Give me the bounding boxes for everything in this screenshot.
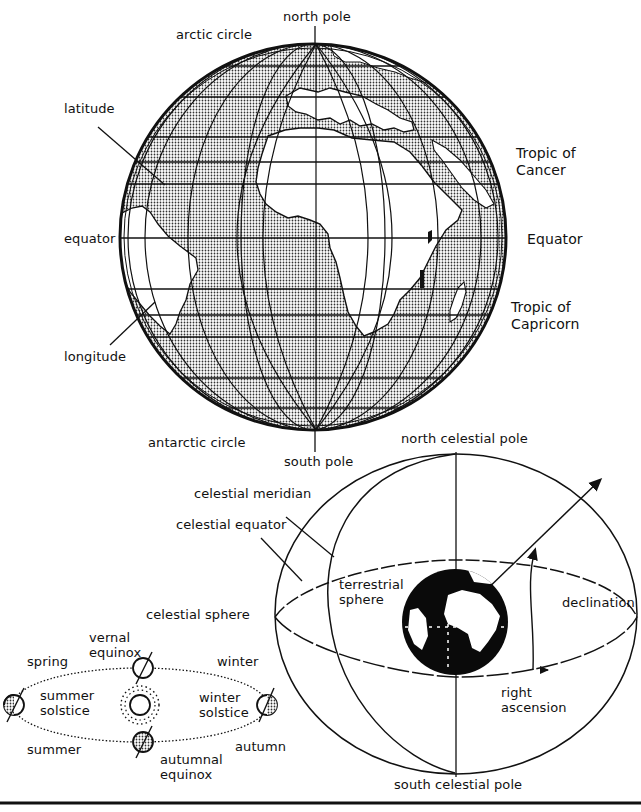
label-spring: spring	[27, 654, 68, 669]
label-summer: summer	[27, 742, 81, 757]
star-direction-vector	[478, 480, 600, 598]
celestial-meridian-leader	[286, 517, 334, 557]
label-latitude: latitude	[64, 101, 115, 116]
earth-globe	[98, 26, 530, 452]
declination-arc	[530, 550, 535, 670]
label-north-celestial-pole: north celestial pole	[401, 431, 528, 446]
label-celestial-equator: celestial equator	[176, 517, 287, 532]
label-tropic-of-cancer: Tropic of Cancer	[516, 145, 576, 179]
label-vernal-equinox: vernal equinox	[89, 630, 141, 660]
label-south-celestial-pole: south celestial pole	[394, 777, 522, 792]
celestial-equator-leader	[261, 538, 302, 581]
label-right-ascension: right ascension	[501, 685, 567, 715]
label-declination: declination	[562, 595, 635, 610]
sun	[121, 686, 159, 724]
label-tropic-of-capricorn: Tropic of Capricorn	[511, 299, 579, 333]
label-summer-solstice: summer solstice	[40, 688, 94, 718]
label-north-pole: north pole	[283, 9, 351, 24]
terrestrial-earth	[402, 569, 508, 675]
label-celestial-meridian: celestial meridian	[194, 486, 311, 501]
label-terrestrial-sphere: terrestrial sphere	[339, 577, 404, 607]
label-autumn: autumn	[235, 739, 286, 754]
earth-summer-solstice	[4, 688, 24, 722]
label-south-pole: south pole	[284, 454, 353, 469]
label-winter-solstice: winter solstice	[199, 690, 249, 720]
earth-autumnal-equinox	[133, 726, 153, 758]
label-equator-left: equator	[64, 231, 116, 246]
label-celestial-sphere: celestial sphere	[146, 607, 250, 622]
label-autumnal-equinox: autumnal equinox	[160, 752, 223, 782]
label-longitude: longitude	[64, 349, 126, 364]
label-winter: winter	[217, 654, 259, 669]
label-equator-right: Equator	[527, 231, 583, 248]
label-antarctic-circle: antarctic circle	[148, 435, 246, 450]
label-arctic-circle: arctic circle	[176, 27, 252, 42]
